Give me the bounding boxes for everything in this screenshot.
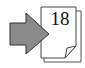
page-number: 18 (46, 8, 74, 30)
